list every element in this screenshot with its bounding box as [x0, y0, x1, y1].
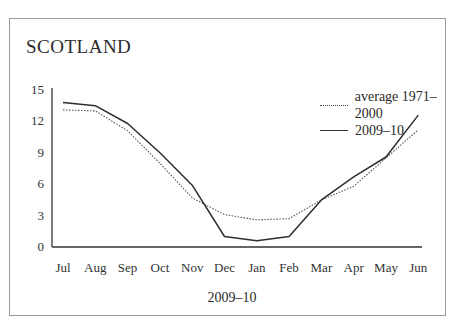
x-tick-label: Oct: [151, 260, 170, 275]
legend-item-2009-10: 2009–10: [320, 122, 464, 139]
line-chart-plot: 03691215JulAugSepOctNovDecJanFebMarAprMa…: [0, 0, 464, 330]
x-tick-label: Jul: [55, 260, 71, 275]
y-tick-label: 6: [38, 176, 45, 191]
y-tick-label: 12: [31, 113, 44, 128]
x-tick-label: Jun: [409, 260, 428, 275]
y-tick-label: 0: [38, 239, 45, 254]
x-tick-label: Aug: [84, 260, 107, 275]
x-tick-label: Sep: [118, 260, 138, 275]
y-tick-label: 3: [38, 208, 45, 223]
x-tick-label: Dec: [214, 260, 235, 275]
x-axis-label: 2009–10: [0, 290, 464, 306]
x-tick-label: Feb: [279, 260, 299, 275]
x-tick-label: May: [374, 260, 398, 275]
x-tick-label: Nov: [181, 260, 204, 275]
x-tick-label: Mar: [311, 260, 333, 275]
x-tick-label: Jan: [248, 260, 266, 275]
legend-item-average: average 1971–2000: [320, 88, 464, 122]
y-tick-label: 9: [38, 145, 45, 160]
x-tick-label: Apr: [344, 260, 365, 275]
legend-label-2009-10: 2009–10: [355, 122, 404, 139]
y-tick-label: 15: [31, 82, 44, 97]
solid-line-swatch-icon: [320, 130, 348, 131]
dotted-line-swatch-icon: [320, 105, 348, 106]
chart-legend: average 1971–2000 2009–10: [320, 88, 464, 139]
legend-label-average: average 1971–2000: [355, 88, 464, 122]
